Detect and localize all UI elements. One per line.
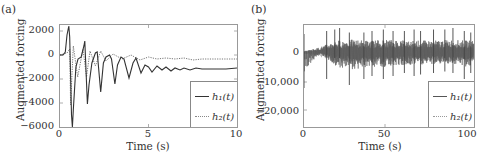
- panel-b-xlabel: Time (s): [350, 140, 410, 152]
- ytick: −20,000: [239, 106, 299, 116]
- ytick: 2000: [0, 25, 54, 35]
- ytick: −2000: [0, 73, 54, 83]
- xtick: 50: [369, 128, 399, 139]
- xtick: 100: [452, 128, 482, 139]
- panel-a-label: (a): [1, 3, 16, 16]
- xtick: 0: [44, 128, 74, 139]
- legend-item-h1: h₁(t): [195, 89, 234, 103]
- panel-a-legend: h₁(t) h₂(t): [190, 81, 238, 128]
- solid-line-swatch: [433, 96, 447, 97]
- panel-b: (b) Augmented forcing 0 −10,000 −20,000 …: [245, 0, 485, 160]
- solid-line-swatch: [195, 96, 209, 97]
- dotted-line-swatch: [433, 116, 447, 117]
- ytick: −4000: [0, 97, 54, 107]
- xtick: 5: [133, 128, 163, 139]
- legend-label: h₁(t): [212, 91, 234, 102]
- panel-b-plot-area: h₁(t) h₂(t): [303, 24, 475, 128]
- ytick: 0: [0, 49, 54, 59]
- panel-a-plot-area: h₁(t) h₂(t): [59, 24, 238, 128]
- xtick: 0: [288, 128, 318, 139]
- legend-item-h2: h₂(t): [433, 109, 472, 123]
- legend-label: h₂(t): [212, 111, 234, 122]
- panel-b-legend: h₁(t) h₂(t): [428, 81, 475, 128]
- panel-a: (a) Augmented forcing 2000 0 −2000 −4000…: [0, 0, 245, 160]
- panel-a-xlabel: Time (s): [118, 140, 178, 152]
- dotted-line-swatch: [195, 116, 209, 117]
- legend-label: h₂(t): [450, 111, 472, 122]
- ytick: −10,000: [239, 77, 299, 87]
- ytick: 0: [239, 47, 299, 57]
- legend-item-h2: h₂(t): [195, 109, 234, 123]
- legend-label: h₁(t): [450, 91, 472, 102]
- legend-item-h1: h₁(t): [433, 89, 472, 103]
- panel-b-label: (b): [251, 3, 267, 16]
